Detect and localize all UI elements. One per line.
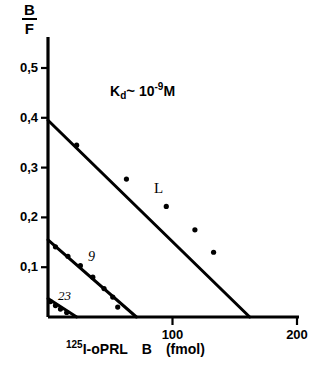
data-point-23 [58, 306, 63, 311]
data-point-L [164, 204, 169, 209]
x-tick-label-200: 200 [274, 328, 317, 341]
data-point-23 [48, 299, 53, 304]
data-point-L [124, 176, 129, 181]
x-axis-title-isotope: I-oPRL [83, 341, 128, 357]
data-point-9 [90, 275, 95, 280]
data-point-9 [101, 286, 106, 291]
approx-icon: ~ [126, 82, 135, 99]
y-tick-label-0,3: 0,3 [4, 161, 38, 174]
kd-base: 10 [139, 83, 155, 99]
y-axis-title-numerator: B [22, 2, 37, 20]
y-tick-label-0,2: 0,2 [4, 210, 38, 223]
data-point-23 [53, 303, 58, 308]
data-point-9 [78, 263, 83, 268]
data-point-L [192, 227, 197, 232]
data-point-9 [65, 254, 70, 259]
x-axis-title-superscript: 125 [66, 339, 83, 350]
data-point-L [211, 250, 216, 255]
data-point-9 [115, 304, 120, 309]
data-point-L [74, 143, 79, 148]
data-point-9 [53, 244, 58, 249]
series-label-L: L [154, 181, 163, 196]
x-axis-title-variable: B [142, 341, 152, 357]
series-label-9: 9 [88, 250, 95, 264]
scatchard-plot-figure: B F Kd~ 10-9M L 9 23 125I-oPRLB(fmol) 0,… [0, 0, 317, 366]
data-point-23 [64, 310, 69, 315]
series-label-23: 23 [58, 289, 71, 302]
y-axis-title: B F [22, 2, 37, 36]
y-axis-title-denominator: F [22, 20, 37, 36]
y-tick-label-0,5: 0,5 [4, 61, 38, 74]
x-tick-label-100: 100 [150, 328, 196, 341]
data-point-9 [110, 294, 115, 299]
regression-line-L [48, 120, 250, 317]
y-tick-label-0,1: 0,1 [4, 260, 38, 273]
x-axis-title: 125I-oPRLB(fmol) [66, 340, 205, 356]
y-tick-label-0,4: 0,4 [4, 111, 38, 124]
kd-annotation: Kd~ 10-9M [110, 82, 175, 101]
kd-symbol: K [110, 83, 120, 99]
kd-unit: M [163, 83, 175, 99]
x-axis-title-units: (fmol) [166, 341, 205, 357]
